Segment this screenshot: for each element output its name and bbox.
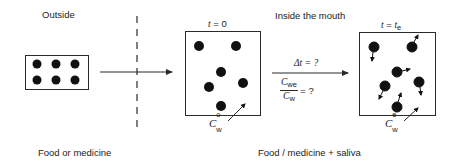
delta-t-label: Δt = ?: [294, 58, 318, 68]
initial-concentration-pointer: [228, 104, 245, 121]
mouth-caption: Food / medicine + saliva: [258, 147, 361, 158]
source-caption: Food or medicine: [38, 147, 111, 158]
initial-particles: [194, 41, 248, 111]
source-particles: [33, 60, 80, 85]
initial-concentration-label: Cow: [209, 117, 222, 131]
equilibrium-concentration-label: Cew: [385, 117, 398, 131]
equilibrium-concentration-pointer: [404, 108, 418, 121]
diagram-graphics: [0, 0, 462, 167]
equilibrium-particles: [369, 35, 424, 112]
concentration-ratio: Cwe Cw = ?: [280, 77, 314, 104]
